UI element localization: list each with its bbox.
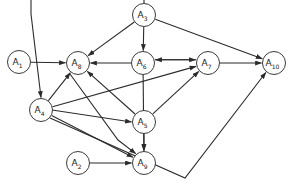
node-a5[interactable]: A5 bbox=[133, 111, 156, 134]
node-a1[interactable]: A1 bbox=[8, 51, 31, 74]
node-circle-a4[interactable] bbox=[30, 99, 53, 122]
node-a8[interactable]: A8 bbox=[67, 52, 90, 75]
node-circle-a6[interactable] bbox=[132, 52, 155, 75]
edge-a3-to-a8 bbox=[88, 22, 134, 56]
edge-a5-to-a7 bbox=[153, 71, 199, 113]
node-circle-a9[interactable] bbox=[133, 152, 156, 175]
diagram-root: A1A2A3A4A5A6A7A8A9A10 bbox=[0, 0, 293, 190]
node-a9[interactable]: A9 bbox=[133, 152, 156, 175]
nodes-layer: A1A2A3A4A5A6A7A8A9A10 bbox=[8, 4, 286, 175]
node-circle-a8[interactable] bbox=[67, 52, 90, 75]
edge-a3-to-a4 bbox=[31, 0, 144, 98]
edges-layer bbox=[31, 0, 266, 178]
node-a7[interactable]: A7 bbox=[197, 52, 220, 75]
node-circle-a10[interactable] bbox=[263, 52, 286, 75]
node-a10[interactable]: A10 bbox=[263, 52, 286, 75]
node-circle-a7[interactable] bbox=[197, 52, 220, 75]
node-a2[interactable]: A2 bbox=[67, 152, 90, 175]
node-a3[interactable]: A3 bbox=[133, 4, 156, 27]
edge-a4-to-a8 bbox=[48, 73, 70, 101]
node-circle-a3[interactable] bbox=[133, 4, 156, 27]
node-a4[interactable]: A4 bbox=[30, 99, 53, 122]
edge-a4-to-a5 bbox=[52, 110, 132, 122]
node-circle-a1[interactable] bbox=[8, 51, 31, 74]
node-circle-a5[interactable] bbox=[133, 111, 156, 134]
node-a6[interactable]: A6 bbox=[132, 52, 155, 75]
edge-a1-to-a8 bbox=[31, 62, 66, 63]
graph-canvas: A1A2A3A4A5A6A7A8A9A10 bbox=[0, 0, 293, 190]
node-circle-a2[interactable] bbox=[67, 152, 90, 175]
